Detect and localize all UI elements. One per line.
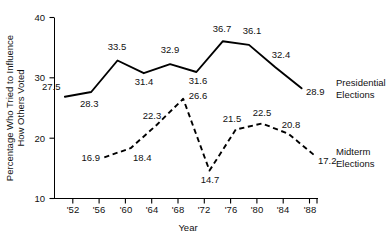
x-tick-label-1956: '56 [93, 204, 105, 215]
data-label-1956: 28.3 [80, 98, 99, 109]
x-tick-label-1952: '52 [67, 204, 79, 215]
data-label-1952: 27.5 [42, 81, 61, 92]
data-label-1970: 26.6 [189, 90, 208, 101]
data-label-1986: 20.8 [282, 119, 301, 130]
legend-midterm-line1: Midterm [336, 146, 370, 157]
x-tick-label-1988: '88 [304, 204, 316, 215]
data-label-1978: 21.5 [223, 113, 242, 124]
x-tick-label-1964: '64 [146, 204, 158, 215]
chart-figure: 40 30 20 10 '52 '56 '60 '64 '68 '72 '76 … [0, 0, 391, 237]
legend: Presidential Elections Midterm Elections [336, 77, 386, 169]
data-label-1980: 36.1 [243, 25, 262, 36]
x-tick-label-1972: '72 [198, 204, 210, 215]
line-chart: 40 30 20 10 '52 '56 '60 '64 '68 '72 '76 … [0, 0, 391, 237]
x-axis-title: Year [178, 222, 197, 233]
data-label-1990: 17.2 [318, 155, 337, 166]
legend-presidential-line1: Presidential [336, 77, 386, 88]
x-axis-ticks [73, 199, 317, 204]
y-tick-labels: 40 30 20 10 [34, 12, 45, 204]
data-label-1968: 32.9 [161, 44, 180, 55]
data-label-1976: 36.7 [213, 23, 232, 34]
y-tick-label-40: 40 [34, 12, 45, 23]
y-axis-title-line2: How Others Voted [15, 69, 26, 146]
data-label-1958: 16.9 [82, 152, 101, 163]
data-label-1974: 14.7 [201, 174, 220, 185]
data-label-1966: 22.3 [143, 110, 162, 121]
x-tick-label-1968: '68 [172, 204, 184, 215]
y-tick-label-20: 20 [34, 133, 45, 144]
legend-midterm-line2: Elections [336, 158, 375, 169]
x-tick-labels: '52 '56 '60 '64 '68 '72 '76 '80 '84 '88 [67, 204, 316, 215]
x-tick-label-1984: '84 [277, 204, 289, 215]
data-label-1988: 28.9 [306, 86, 325, 97]
data-label-1982: 22.5 [253, 107, 272, 118]
y-axis-title-line1: Percentage Who Tried to Influence [4, 35, 15, 181]
data-label-1984: 32.4 [272, 49, 291, 60]
y-axis-ticks [50, 18, 55, 199]
legend-presidential-line2: Elections [336, 89, 375, 100]
series-presidential-line [65, 41, 302, 97]
x-tick-label-1976: '76 [225, 204, 237, 215]
x-tick-label-1960: '60 [120, 204, 132, 215]
data-label-1972: 31.6 [189, 75, 208, 86]
data-label-1962: 18.4 [133, 152, 152, 163]
data-label-1964: 31.4 [135, 76, 154, 87]
data-label-1960: 33.5 [108, 41, 127, 52]
presidential-data-labels: 27.5 28.3 33.5 31.4 32.9 31.6 36.7 36.1 … [42, 23, 325, 109]
y-tick-label-10: 10 [34, 193, 45, 204]
x-tick-label-1980: '80 [251, 204, 263, 215]
